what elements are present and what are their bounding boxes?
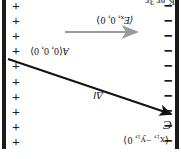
- cropped-caption-text: K or 3r: [145, 0, 181, 8]
- field-components: , 0, 0⟩: [96, 15, 120, 26]
- point-c-coordinates-label: ⟨x₁, −y₁, 0⟩: [123, 135, 169, 145]
- field-symbol: ⟨E: [124, 15, 134, 26]
- point-c-label: C: [163, 119, 172, 132]
- electric-field-label: ⟨Ex, 0, 0⟩: [96, 14, 134, 25]
- capacitor-figure: − − − − − − − − − − + + + + + + + + + +: [0, 0, 181, 159]
- point-a-coordinates: ⟨0, 0, 0⟩: [30, 46, 63, 57]
- point-a-name: A: [63, 46, 69, 57]
- cropped-caption-fragment: K or 3r: [0, 0, 181, 8]
- field-subscript: x: [120, 14, 124, 22]
- point-a-label: A⟨0, 0, 0⟩: [30, 46, 69, 56]
- displacement-vector-label: Δl: [93, 90, 103, 101]
- displacement-vector-arrow: [8, 59, 171, 114]
